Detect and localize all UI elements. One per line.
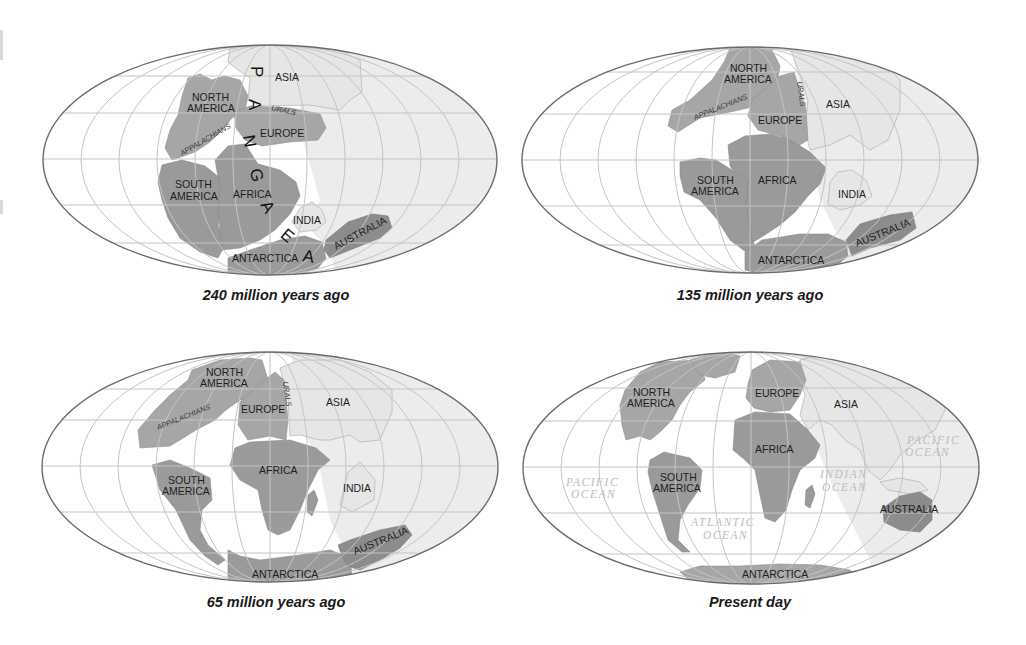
label-south-america: AMERICA [653,482,701,494]
label-europe: EUROPE [758,114,802,126]
label-north-america: AMERICA [200,377,248,389]
label-india: INDIA [293,214,321,226]
label-europe: EUROPE [755,387,799,399]
map-135-mya: NORTH AMERICA URALS APPALACHIANS ASIA EU… [520,40,990,303]
label-antarctica: ANTARCTICA [232,252,298,264]
label-indian-ocean: OCEAN [822,481,867,493]
label-north-america: AMERICA [187,102,235,114]
map-65-mya: NORTH AMERICA URALS APPALACHIANS EUROPE … [40,345,500,610]
label-pacific-ocean-east: PACIFIC [906,434,960,446]
svg-text:P: P [247,66,266,77]
label-australia: AUSTRALIA [880,503,938,515]
label-asia: ASIA [326,396,350,408]
label-europe: EUROPE [260,127,304,139]
label-south-america: AMERICA [170,190,218,202]
label-antarctica: ANTARCTICA [252,568,318,580]
label-asia: ASIA [826,98,850,110]
map-240-mya: ASIA NORTH AMERICA URALS EUROPE APPALACH… [40,40,520,303]
map-caption: 65 million years ago [207,594,346,610]
label-africa: AFRICA [755,443,794,455]
label-south-america: AMERICA [691,185,739,197]
label-south-america: SOUTH [175,178,212,190]
label-atlantic-ocean: OCEAN [703,529,748,541]
label-asia: ASIA [275,71,299,83]
svg-text:A: A [245,99,264,111]
label-antarctica: ANTARCTICA [758,254,824,266]
continental-drift-figure: ASIA NORTH AMERICA URALS EUROPE APPALACH… [0,0,1026,645]
label-africa: AFRICA [233,188,272,200]
label-south-america: AMERICA [162,485,210,497]
map-caption: Present day [709,594,792,610]
label-antarctica: ANTARCTICA [742,568,808,580]
label-india: INDIA [838,188,866,200]
label-pacific-ocean-west: PACIFIC [565,476,619,488]
map-caption: 135 million years ago [677,287,824,303]
label-pacific-ocean-west: OCEAN [571,488,616,500]
label-pacific-ocean-east: OCEAN [905,446,950,458]
label-africa: AFRICA [758,174,797,186]
label-asia: ASIA [834,398,858,410]
label-indian-ocean: INDIAN [819,468,867,480]
label-atlantic-ocean: ATLANTIC [690,516,755,528]
map-caption: 240 million years ago [202,287,350,303]
label-india: INDIA [343,482,371,494]
label-north-america: AMERICA [627,397,675,409]
map-present-day: NORTH AMERICA EUROPE ASIA AFRICA SOUTH A… [520,340,990,610]
label-europe: EUROPE [241,403,285,415]
label-north-america: AMERICA [724,73,772,85]
label-africa: AFRICA [259,464,298,476]
